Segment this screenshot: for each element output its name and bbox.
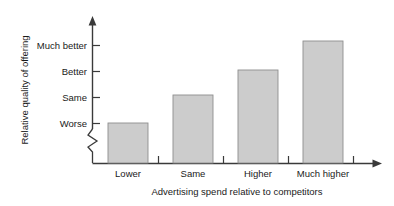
y-tick-marks <box>93 46 101 124</box>
x-tick-label-same: Same <box>181 168 206 179</box>
bar-same <box>173 95 213 163</box>
y-tick-label-worse: Worse <box>60 118 87 129</box>
y-tick-label-same: Same <box>62 92 87 103</box>
y-tick-label-better: Better <box>62 66 87 77</box>
x-tick-label-lower: Lower <box>115 168 141 179</box>
x-tick-label-higher: Higher <box>244 168 272 179</box>
y-tick-label-much-better: Much better <box>37 40 87 51</box>
bar-chart-figure: Much better Better Same Worse Lower Same… <box>0 0 394 206</box>
y-tick-labels: Much better Better Same Worse <box>37 40 87 129</box>
x-axis-arrowhead <box>373 160 383 168</box>
bar-lower <box>108 123 148 163</box>
x-tick-label-much-higher: Much higher <box>297 168 349 179</box>
x-tick-labels: Lower Same Higher Much higher <box>115 168 349 179</box>
bar-higher <box>238 70 278 163</box>
x-axis-title: Advertising spend relative to competitor… <box>151 186 322 197</box>
y-axis-title: Relative quality of offering <box>19 35 30 144</box>
bar-much-higher <box>303 41 343 163</box>
y-axis-arrowhead <box>89 16 97 26</box>
y-axis-break-zigzag <box>88 129 97 163</box>
chart-canvas: Much better Better Same Worse Lower Same… <box>0 0 394 206</box>
bar-series <box>108 41 343 163</box>
y-axis <box>88 16 97 163</box>
